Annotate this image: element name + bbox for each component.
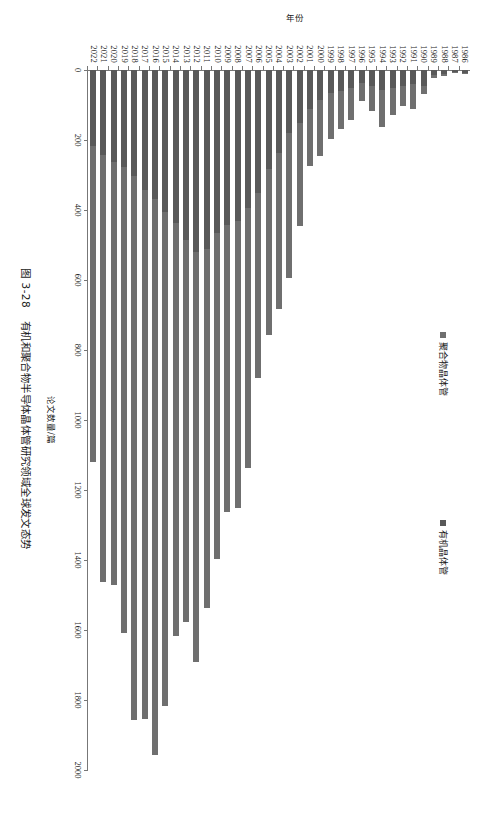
bar-row xyxy=(204,70,210,770)
bar-segment-polymer xyxy=(152,199,158,756)
value-tick-label: 1400 xyxy=(73,552,82,569)
category-tick-label: 1987 xyxy=(451,45,460,63)
category-tick-label: 1997 xyxy=(347,45,356,63)
category-tick xyxy=(170,66,171,70)
legend-label-polymer: 聚合物晶体管 xyxy=(437,342,450,396)
value-tick-label: 1000 xyxy=(73,412,82,429)
bar-segment-polymer xyxy=(245,208,251,468)
legend-swatch-polymer xyxy=(441,332,447,338)
category-tick-label: 1991 xyxy=(409,45,418,63)
bar-segment-polymer xyxy=(400,86,406,106)
figure-caption: 图 3-28 有机和聚合物半导体晶体管研究领域全球发文态势 xyxy=(19,0,34,818)
category-tick xyxy=(283,66,284,70)
bar-segment-polymer xyxy=(441,74,447,76)
bar-segment-polymer xyxy=(193,252,199,662)
legend-item-organic: 有机晶体管 xyxy=(437,520,450,575)
bar-segment-organic xyxy=(266,70,272,169)
category-tick xyxy=(397,66,398,70)
category-tick xyxy=(366,66,367,70)
bar-segment-organic xyxy=(348,70,354,88)
legend-item-polymer: 聚合物晶体管 xyxy=(437,332,450,396)
category-tick-label: 2002 xyxy=(296,45,305,63)
category-tick-label: 2020 xyxy=(110,45,119,63)
bar-segment-polymer xyxy=(276,153,282,309)
category-tick-label: 1990 xyxy=(420,45,429,63)
bar-row xyxy=(390,70,396,770)
bar-row xyxy=(173,70,179,770)
bar-row xyxy=(224,70,230,770)
bar-row xyxy=(183,70,189,770)
bar-segment-polymer xyxy=(204,249,210,607)
bar-segment-organic xyxy=(297,70,303,123)
category-tick-label: 2018 xyxy=(130,45,139,63)
value-tick-label: 0 xyxy=(73,68,82,72)
bar-segment-organic xyxy=(245,70,251,208)
category-tick xyxy=(263,66,264,70)
bar-series-container xyxy=(88,70,470,770)
category-tick-label: 2005 xyxy=(265,45,274,63)
value-tick-label: 200 xyxy=(73,134,82,147)
value-tick-label: 2000 xyxy=(73,762,82,779)
bar-row xyxy=(317,70,323,770)
value-tick-label: 1800 xyxy=(73,692,82,709)
value-tick xyxy=(84,350,88,351)
category-tick-label: 2013 xyxy=(182,45,191,63)
bar-segment-polymer xyxy=(224,225,230,511)
bar-segment-polymer xyxy=(142,190,148,719)
bar-segment-polymer xyxy=(90,146,96,462)
bar-segment-organic xyxy=(410,70,416,84)
category-tick-label: 1992 xyxy=(399,45,408,63)
bar-segment-polymer xyxy=(286,133,292,278)
category-tick xyxy=(355,66,356,70)
category-tick-label: 2010 xyxy=(213,45,222,63)
value-tick xyxy=(84,420,88,421)
category-tick xyxy=(417,66,418,70)
category-tick xyxy=(159,66,160,70)
bar-segment-organic xyxy=(286,70,292,133)
bar-row xyxy=(338,70,344,770)
category-tick xyxy=(128,66,129,70)
legend-swatch-organic xyxy=(441,520,447,526)
bar-row xyxy=(101,70,107,770)
value-tick xyxy=(84,560,88,561)
bar-row xyxy=(214,70,220,770)
bar-row xyxy=(462,70,468,770)
category-tick-label: 1986 xyxy=(461,45,470,63)
bar-row xyxy=(307,70,313,770)
category-axis-title-text: 年份 xyxy=(286,11,304,23)
bar-segment-organic xyxy=(317,70,323,100)
category-tick-label: 1995 xyxy=(368,45,377,63)
bar-row xyxy=(162,70,168,770)
bar-segment-organic xyxy=(338,70,344,91)
category-tick xyxy=(201,66,202,70)
category-tick xyxy=(97,66,98,70)
bar-segment-organic xyxy=(390,70,396,88)
category-tick xyxy=(314,66,315,70)
bar-segment-polymer xyxy=(235,221,241,508)
bar-segment-polymer xyxy=(162,212,168,706)
bar-segment-polymer xyxy=(121,167,127,633)
bar-segment-polymer xyxy=(101,155,107,582)
value-tick xyxy=(84,210,88,211)
bar-row xyxy=(421,70,427,770)
bar-segment-organic xyxy=(328,70,334,93)
bar-segment-polymer xyxy=(431,75,437,79)
bar-segment-organic xyxy=(400,70,406,86)
category-tick xyxy=(139,66,140,70)
category-tick xyxy=(428,66,429,70)
bar-segment-organic xyxy=(121,70,127,167)
bar-segment-organic xyxy=(193,70,199,252)
category-tick-label: 1989 xyxy=(430,45,439,63)
bar-row xyxy=(276,70,282,770)
bar-row xyxy=(286,70,292,770)
value-axis-title: 论文数量/篇 xyxy=(46,70,58,770)
figure-rotation-wrapper: 1986198719881989199019911992199319941995… xyxy=(0,0,486,818)
category-tick xyxy=(273,66,274,70)
category-tick-label: 1999 xyxy=(327,45,336,63)
category-tick-label: 2016 xyxy=(151,45,160,63)
value-tick-label: 600 xyxy=(73,274,82,287)
category-tick xyxy=(459,66,460,70)
bar-row xyxy=(111,70,117,770)
value-tick-label: 1200 xyxy=(73,482,82,499)
bar-segment-polymer xyxy=(173,223,179,636)
